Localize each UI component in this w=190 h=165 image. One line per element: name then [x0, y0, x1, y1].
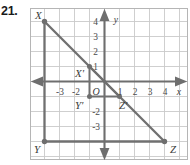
x-tick-label-3: 3: [148, 87, 153, 97]
vertex-label-Y-prime: Y': [75, 99, 84, 111]
problem-number: 21.: [1, 4, 17, 18]
coordinate-grid-svg: 4 3 2 1 -2 -3 -3 -2 1 2 3 4 O y x X Y Z …: [30, 8, 188, 160]
x-tick-label-1: 1: [118, 87, 123, 97]
figure-root: 21.: [0, 0, 190, 165]
vertex-point-X: [42, 19, 47, 24]
vertex-point-X-prime: [87, 64, 92, 69]
coordinate-plane-figure: 4 3 2 1 -2 -3 -3 -2 1 2 3 4 O y x X Y Z …: [30, 8, 188, 160]
x-tick-label-4: 4: [163, 87, 168, 97]
vertex-label-X: X: [34, 9, 43, 21]
vertex-point-Z: [162, 139, 167, 144]
y-tick-label-neg3: -3: [92, 122, 100, 132]
vertex-label-X-prime: X': [74, 67, 85, 79]
x-tick-label-2: 2: [133, 87, 138, 97]
y-tick-label-2: 2: [93, 47, 98, 57]
x-tick-label-neg2: -2: [72, 87, 80, 97]
vertex-label-Z: Z: [170, 143, 177, 155]
y-tick-label-4: 4: [93, 17, 98, 27]
y-axis-label: y: [113, 14, 119, 25]
vertex-point-Y: [42, 139, 47, 144]
x-tick-label-neg3: -3: [56, 87, 64, 97]
vertex-point-Y-prime: [87, 94, 92, 99]
y-tick-label-neg2: -2: [92, 107, 100, 117]
origin-label: O: [92, 86, 99, 97]
vertex-label-Z-prime: Z': [119, 99, 128, 111]
y-tick-label-3: 3: [93, 32, 98, 42]
y-tick-label-1: 1: [93, 62, 98, 72]
x-axis-label: x: [176, 86, 182, 97]
